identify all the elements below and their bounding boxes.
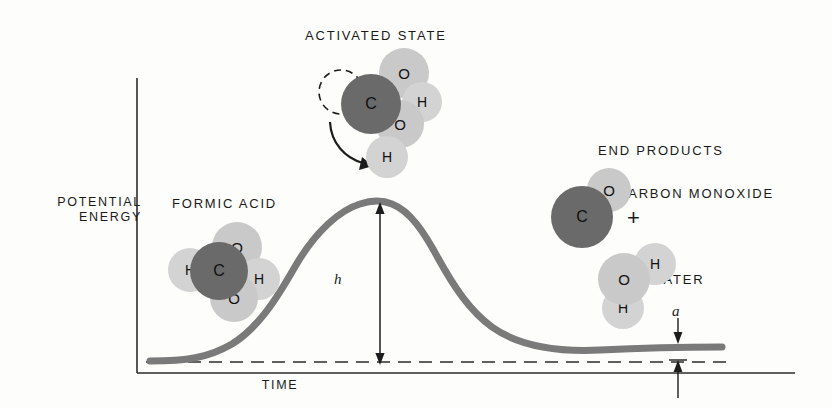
- x-axis-label: TIME: [0, 378, 560, 393]
- y-axis-label-line1: POTENTIAL: [57, 195, 142, 210]
- formic-acid-label: FORMIC ACID: [172, 196, 277, 212]
- activated-state-label: ACTIVATED STATE: [305, 28, 447, 44]
- water-molecule: H H O: [596, 243, 691, 335]
- carbon-atom: C: [190, 242, 248, 300]
- reaction-energy-arrow-bottom: [669, 360, 687, 398]
- y-axis-label: POTENTIAL ENERGY: [57, 195, 142, 226]
- carbon-atom: C: [551, 186, 613, 248]
- activation-energy-arrow: [375, 202, 384, 365]
- end-products-label: END PRODUCTS: [598, 143, 724, 159]
- hydrogen-atom: H: [366, 136, 408, 178]
- carbon-monoxide-molecule: O C: [551, 168, 641, 253]
- y-axis-label-line2: ENERGY: [57, 210, 142, 225]
- carbon-atom: C: [341, 74, 401, 134]
- figure-canvas: POTENTIAL ENERGY TIME h a ACTIVATED STAT…: [0, 0, 832, 408]
- activated-state-molecule: O H O H C: [330, 48, 460, 183]
- formic-acid-molecule: O H O H C: [168, 222, 308, 332]
- activation-energy-symbol: h: [334, 270, 342, 288]
- oxygen-atom: O: [598, 253, 650, 305]
